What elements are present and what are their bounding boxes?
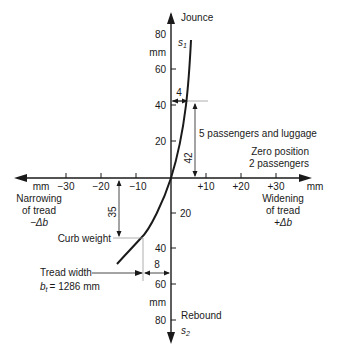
tick-down-80: 80 <box>155 315 167 326</box>
narrowing-label-1: Narrowing <box>16 193 62 204</box>
tick-right-20: +20 <box>233 181 250 192</box>
tick-down-60: 60 <box>155 279 167 290</box>
up-arrow-icon <box>167 12 175 24</box>
left-arrow-icon <box>14 174 27 182</box>
down-arrow-icon <box>167 332 175 344</box>
five-passengers-label: 5 passengers and luggage <box>199 128 317 139</box>
narrowing-label-2: of tread <box>22 205 56 216</box>
unit-mm-down: mm <box>149 297 166 308</box>
dim-8-label: 8 <box>154 259 160 270</box>
tick-down-40: 40 <box>155 243 167 254</box>
dim-35-label: 35 <box>107 206 118 218</box>
dim-4-label: 4 <box>176 87 182 98</box>
narrowing-label-3: −Δb <box>30 217 49 228</box>
zero-position-label-1: Zero position <box>251 146 309 157</box>
tick-left-20: −20 <box>93 181 110 192</box>
tick-right-10: +10 <box>198 181 215 192</box>
rebound-label: Rebound <box>181 310 222 321</box>
tick-up-60: 60 <box>155 64 167 75</box>
tread-width-label-1: Tread width <box>40 267 92 278</box>
tick-left-30: −30 <box>58 181 75 192</box>
jounce-label: Jounce <box>181 12 214 23</box>
unit-mm-up: mm <box>149 47 166 58</box>
curb-weight-label: Curb weight <box>58 233 112 244</box>
s1-symbol: s1 <box>178 37 187 49</box>
unit-mm-left: mm <box>33 181 50 192</box>
s2-symbol: s2 <box>181 325 190 337</box>
tread-width-label-2: bt= 1286 mm <box>40 281 100 293</box>
widening-label-3: +Δb <box>274 217 293 228</box>
tick-up-40: 40 <box>155 100 167 111</box>
tick-left-10: −10 <box>130 181 147 192</box>
zero-position-label-2: 2 passengers <box>249 158 309 169</box>
widening-label-2: of tread <box>266 205 300 216</box>
tick-right-30: +30 <box>268 181 285 192</box>
tick-up-20: 20 <box>155 136 167 147</box>
dim-42-label: 42 <box>183 152 194 164</box>
unit-mm-right: mm <box>307 181 324 192</box>
tick-down-20: 20 <box>180 208 192 219</box>
widening-label-1: Widening <box>262 193 304 204</box>
tick-up-80: 80 <box>155 29 167 40</box>
tread-change-diagram: Jounce 80 mm 60 40 20 s1 20 40 60 mm 80 … <box>0 0 337 352</box>
